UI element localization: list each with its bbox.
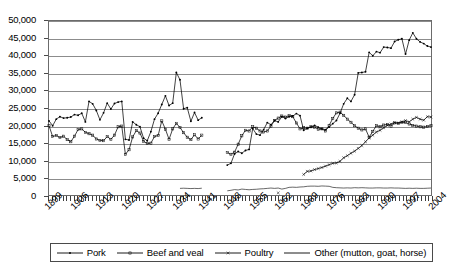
legend-label: Other (mutton, goat, horse) [314, 247, 426, 258]
x-axis: 1899190619131920192719341941194819551962… [0, 198, 451, 238]
y-tick-label: 40,000 [8, 50, 36, 60]
y-axis: 05,00010,00015,00020,00025,00030,00035,0… [0, 0, 44, 196]
legend: PorkBeef and vealPoultryOther (mutton, g… [50, 243, 433, 262]
y-tick-label: 15,000 [8, 138, 36, 148]
y-tick-label: 20,000 [8, 121, 36, 131]
legend-marker-cross-icon [215, 249, 241, 257]
legend-item-pork[interactable]: Pork [57, 247, 106, 258]
legend-label: Pork [87, 247, 106, 258]
y-tick-label: 50,000 [8, 15, 36, 25]
y-tick-label: 45,000 [8, 33, 36, 43]
legend-label: Beef and veal [147, 247, 204, 258]
plot-area [48, 20, 432, 196]
series-poultry [277, 115, 433, 194]
series-pork [48, 32, 432, 166]
legend-item-other[interactable]: Other (mutton, goat, horse) [284, 247, 426, 258]
y-tick-label: 10,000 [8, 156, 36, 166]
legend-marker-none-icon [284, 249, 310, 257]
legend-marker-dot-icon [57, 249, 83, 257]
legend-marker-square-icon [117, 249, 143, 257]
y-tick-label: 35,000 [8, 68, 36, 78]
y-tick-label: 25,000 [8, 103, 36, 113]
series-other [180, 186, 431, 191]
y-tick-label: 5,000 [13, 173, 36, 183]
legend-item-beef[interactable]: Beef and veal [117, 247, 204, 258]
y-tick-label: 30,000 [8, 85, 36, 95]
chart-container: 05,00010,00015,00020,00025,00030,00035,0… [0, 0, 451, 270]
legend-label: Poultry [245, 247, 274, 258]
series-layer [49, 21, 431, 195]
legend-item-poultry[interactable]: Poultry [215, 247, 274, 258]
